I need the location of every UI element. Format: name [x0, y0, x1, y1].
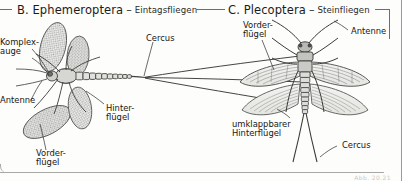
section-title-b: B. Ephemeroptera	[17, 3, 123, 17]
section-heading-plecoptera: C. Plecoptera – Steinfliegen	[196, 2, 389, 17]
heading-rule-left	[0, 9, 12, 10]
title-dash-c: –	[309, 3, 315, 16]
label-umklappbarer-hinterfluegel: umklappbarer Hinterflügel	[232, 120, 291, 139]
label-cercus-mayfly-line1: Cercus	[146, 34, 175, 43]
label-vorderfluegel-stonefly-line2: flügel	[243, 30, 273, 39]
label-antenne-mayfly-line1: Antenne	[0, 96, 35, 105]
label-umklappbarer-hinterfluegel-line2: Hinterflügel	[232, 129, 291, 138]
label-antenne-mayfly: Antenne	[0, 96, 35, 105]
label-vorderfluegel-stonefly: Vorder- flügel	[243, 21, 273, 40]
section-common-name-c: Steinfliegen	[317, 5, 369, 15]
label-cercus-stonefly-line1: Cercus	[342, 141, 371, 150]
plate-bottom-rule	[0, 172, 384, 173]
label-komplexauge-line2: auge	[0, 47, 39, 56]
section-heading-ephemeroptera: B. Ephemeroptera – Eintagsfliegen	[0, 2, 225, 17]
title-dash-b: –	[126, 3, 132, 16]
figure-caption-faint: Abb. 20.21	[354, 174, 391, 181]
label-antenne-stonefly: Antenne	[351, 27, 386, 36]
label-vorderfluegel-mayfly-line2: flügel	[36, 158, 66, 167]
label-hinterfluegel-mayfly-line2: flügel	[106, 113, 134, 122]
label-cercus-mayfly: Cercus	[146, 34, 175, 43]
label-cercus-stonefly: Cercus	[342, 141, 371, 150]
heading-rule-left-c	[196, 9, 222, 10]
figure-plate: B. Ephemeroptera – Eintagsfliegen C. Ple…	[0, 0, 402, 181]
label-vorderfluegel-mayfly: Vorder- flügel	[36, 149, 66, 168]
label-komplexauge: Komplex- auge	[0, 38, 39, 57]
label-antenne-stonefly-line1: Antenne	[351, 27, 386, 36]
label-hinterfluegel-mayfly: Hinter- flügel	[106, 104, 134, 123]
section-common-name-b: Eintagsfliegen	[135, 5, 198, 15]
section-title-c: C. Plecoptera	[228, 3, 306, 17]
